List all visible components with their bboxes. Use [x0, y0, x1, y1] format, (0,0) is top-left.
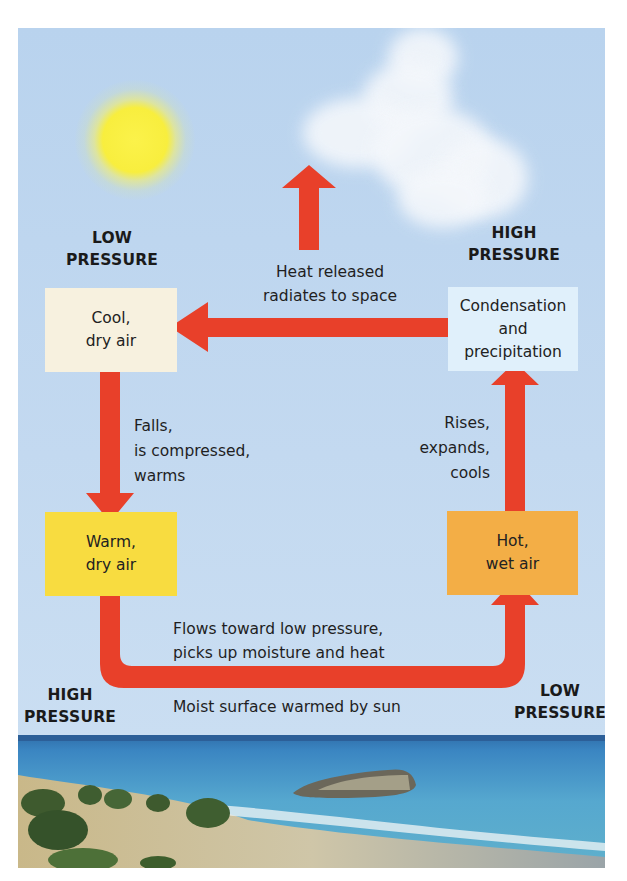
rises-label: Rises, expands, cools [390, 411, 490, 486]
pressure-label-bottom-left: HIGH PRESSURE [20, 684, 120, 728]
warm-dry-air-box: Warm, dry air [45, 512, 177, 596]
cool-dry-air-box: Cool, dry air [45, 288, 177, 372]
down-arrow [86, 372, 134, 522]
heat-released-label: Heat released radiates to space [230, 260, 430, 308]
beach-photo [18, 735, 605, 868]
up-arrow [491, 362, 539, 511]
diagram-panel: LOW PRESSURE HIGH PRESSURE HIGH PRESSURE… [18, 28, 605, 868]
heat-up-arrow [282, 165, 336, 250]
surface-label: Moist surface warmed by sun [173, 695, 473, 719]
hot-wet-air-box: Hot, wet air [447, 511, 578, 595]
condensation-box: Condensation and precipitation [448, 287, 578, 371]
pressure-label-top-right: HIGH PRESSURE [464, 222, 564, 266]
pressure-label-top-left: LOW PRESSURE [62, 227, 162, 271]
pressure-label-bottom-right: LOW PRESSURE [510, 680, 605, 724]
falls-label: Falls, is compressed, warms [134, 414, 334, 489]
flows-label: Flows toward low pressure, picks up mois… [173, 617, 473, 665]
left-arrow [170, 302, 448, 352]
